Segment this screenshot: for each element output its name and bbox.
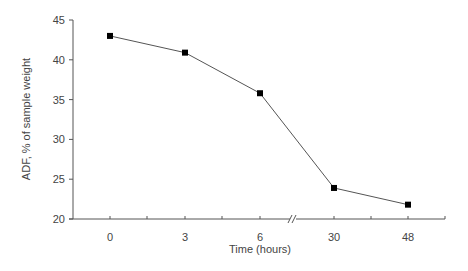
y-tick-label: 20: [53, 213, 65, 225]
data-point-marker: [107, 33, 113, 39]
data-point-marker: [331, 185, 337, 191]
x-tick-label: 3: [182, 231, 188, 243]
x-axis-title: Time (hours): [229, 243, 291, 255]
x-tick-label: 48: [402, 231, 414, 243]
x-tick-label: 6: [257, 231, 263, 243]
x-tick-label: 30: [328, 231, 340, 243]
y-tick-label: 25: [53, 173, 65, 185]
y-tick-label: 40: [53, 54, 65, 66]
y-tick-label: 30: [53, 133, 65, 145]
chart: 202530354045 0363048 ADF, % of sample we…: [0, 0, 468, 271]
data-point-marker: [405, 202, 411, 208]
x-tick-label: 0: [107, 231, 113, 243]
x-axis: 0363048: [69, 215, 445, 243]
data-point-marker: [182, 50, 188, 56]
y-axis-title: ADF, % of sample weight: [20, 58, 32, 180]
series-line: [110, 36, 408, 205]
y-tick-label: 45: [53, 14, 65, 26]
data-series: [107, 33, 411, 208]
data-point-marker: [257, 90, 263, 96]
y-axis: 202530354045: [53, 14, 73, 225]
y-tick-label: 35: [53, 94, 65, 106]
